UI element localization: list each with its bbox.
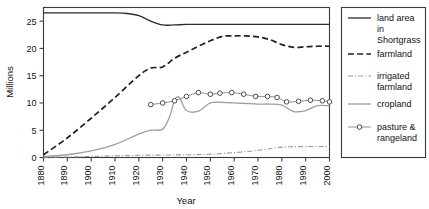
series-line xyxy=(44,97,330,157)
series-line xyxy=(44,13,330,25)
x-tick-label: 1970 xyxy=(250,166,260,186)
legend-label: farmland xyxy=(377,49,412,59)
series-data-point xyxy=(241,92,246,97)
chart-series-group xyxy=(44,13,332,157)
series-data-point xyxy=(265,94,270,99)
y-tick-label: 10 xyxy=(26,98,36,108)
y-axis-ticks: 0510152025 xyxy=(26,17,43,163)
series-data-point xyxy=(275,95,280,100)
x-tick-label: 1890 xyxy=(59,166,69,186)
series-data-point xyxy=(196,90,201,95)
x-tick-label: 2000 xyxy=(322,166,332,186)
legend-label: in xyxy=(377,24,384,34)
y-tick-label: 25 xyxy=(26,17,36,27)
legend-label: Shortgrass xyxy=(377,35,421,45)
series-data-point xyxy=(148,102,153,107)
legend-label: rangeland xyxy=(377,133,417,143)
legend-label: land area xyxy=(377,13,415,23)
y-tick-label: 5 xyxy=(31,126,36,136)
series-data-point xyxy=(308,98,313,103)
y-tick-label: 20 xyxy=(26,44,36,54)
x-tick-label: 1980 xyxy=(274,166,284,186)
x-axis-title-text: Year xyxy=(176,195,195,206)
x-axis-title: Year xyxy=(176,195,195,206)
x-tick-label: 1960 xyxy=(226,166,236,186)
series-data-point xyxy=(253,94,258,99)
y-tick-label: 15 xyxy=(26,71,36,81)
series-data-point xyxy=(296,99,301,104)
x-tick-label: 1930 xyxy=(155,166,165,186)
x-tick-label: 1990 xyxy=(298,166,308,186)
x-axis-ticks: 1880189019001910192019301940195019601970… xyxy=(36,158,332,186)
series-data-point xyxy=(229,90,234,95)
chart-figure: 0510152025 18801890190019101920193019401… xyxy=(0,0,429,209)
series-data-point xyxy=(327,100,332,105)
y-axis-title: Millions xyxy=(4,66,15,98)
x-tick-label: 1950 xyxy=(202,166,212,186)
y-tick-label: 0 xyxy=(31,153,36,163)
legend-swatch-marker xyxy=(357,125,362,130)
x-tick-label: 1920 xyxy=(131,166,141,186)
legend-label: pasture & xyxy=(377,122,416,132)
series-data-point xyxy=(218,91,223,96)
plot-frame xyxy=(44,8,330,158)
series-data-point xyxy=(172,98,177,103)
legend-label: irrigated xyxy=(377,71,410,81)
chart-canvas: 0510152025 18801890190019101920193019401… xyxy=(0,0,429,209)
x-tick-label: 1910 xyxy=(107,166,117,186)
y-axis-title-text: Millions xyxy=(4,66,15,98)
series-data-point xyxy=(160,101,165,106)
chart-legend: land areainShortgrassfarmlandirrigatedfa… xyxy=(342,8,426,158)
x-tick-label: 1900 xyxy=(83,166,93,186)
series-data-point xyxy=(208,92,213,97)
x-tick-label: 1880 xyxy=(36,166,46,186)
x-tick-label: 1940 xyxy=(179,166,189,186)
series-data-point xyxy=(184,94,189,99)
legend-label: farmland xyxy=(377,82,412,92)
series-data-point xyxy=(284,100,289,105)
series-data-point xyxy=(320,98,325,103)
legend-label: cropland xyxy=(377,99,412,109)
